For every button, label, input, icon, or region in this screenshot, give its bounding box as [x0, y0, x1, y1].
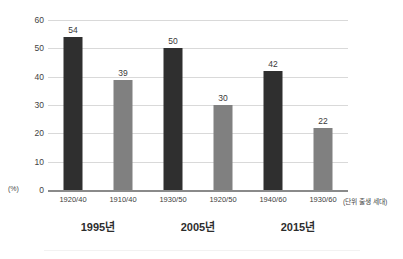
bar-chart: 6050403020100 (%) 543950304222 1920/4019…	[0, 0, 403, 259]
x-tick-label: 1930/50	[148, 195, 198, 204]
y-tick-label-10: 10	[10, 157, 44, 167]
bar[interactable]	[264, 71, 283, 190]
bar-value-label: 30	[218, 93, 227, 103]
bar[interactable]	[64, 37, 83, 190]
bar-slot: 39	[98, 20, 148, 190]
bars-layer: 543950304222	[48, 20, 348, 190]
x-axis-line	[48, 190, 348, 192]
bar-slot: 22	[298, 20, 348, 190]
unit-note: (단위 출생 세대)	[343, 196, 387, 206]
bar-slot: 54	[48, 20, 98, 190]
group-label-2015년: 2015년	[248, 218, 348, 234]
x-tick-label: 1940/60	[248, 195, 298, 204]
bar-value-label: 22	[318, 116, 327, 126]
y-tick-label-30: 30	[10, 100, 44, 110]
bar[interactable]	[114, 80, 133, 191]
x-axis-group-labels: 1995년2005년2015년	[48, 218, 348, 236]
bar[interactable]	[314, 128, 333, 190]
x-tick-label: 1910/40	[98, 195, 148, 204]
y-axis-unit-label: (%)	[8, 185, 19, 192]
x-tick-label: 1930/60	[298, 195, 348, 204]
bar-value-label: 50	[168, 36, 177, 46]
y-tick-label-60: 60	[10, 15, 44, 25]
bar[interactable]	[214, 105, 233, 190]
x-axis-category-labels: 1920/401910/401930/501920/501940/601930/…	[48, 195, 348, 209]
y-axis: 6050403020100	[6, 20, 44, 190]
bar-value-label: 42	[268, 59, 277, 69]
group-label-2005년: 2005년	[148, 218, 248, 234]
x-tick-label: 1920/50	[198, 195, 248, 204]
bar-slot: 50	[148, 20, 198, 190]
bar-value-label: 54	[68, 25, 77, 35]
y-tick-label-40: 40	[10, 72, 44, 82]
x-tick-label: 1920/40	[48, 195, 98, 204]
bar-slot: 30	[198, 20, 248, 190]
y-tick-label-20: 20	[10, 128, 44, 138]
bar-slot: 42	[248, 20, 298, 190]
footer-divider	[44, 250, 360, 251]
group-label-1995년: 1995년	[48, 218, 148, 234]
bar[interactable]	[164, 48, 183, 190]
bar-value-label: 39	[118, 68, 127, 78]
y-tick-label-50: 50	[10, 43, 44, 53]
